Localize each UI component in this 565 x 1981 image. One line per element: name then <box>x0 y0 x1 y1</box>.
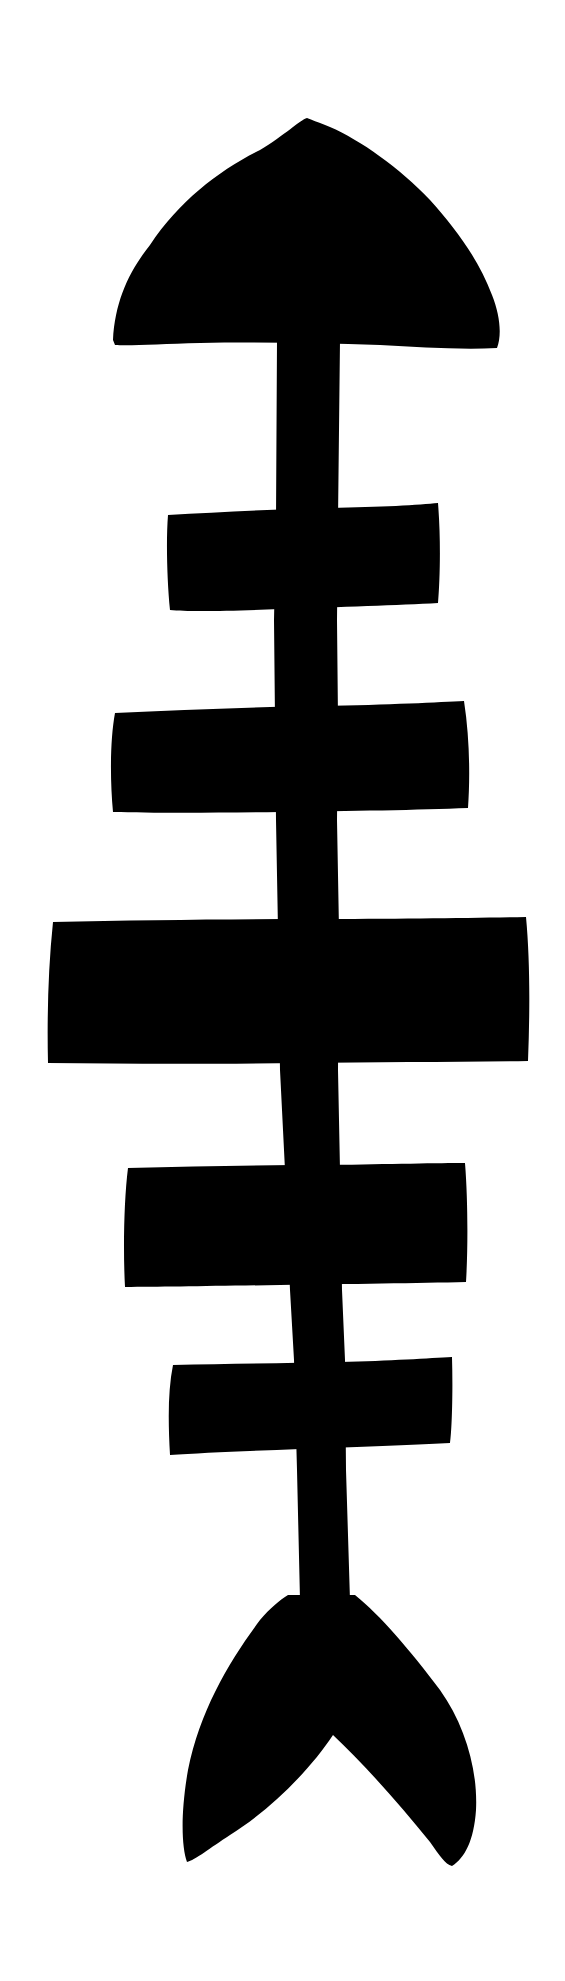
fish-skeleton-icon <box>0 0 565 1981</box>
rib-5 <box>169 1357 453 1455</box>
rib-2 <box>111 701 469 813</box>
rib-4 <box>124 1163 467 1287</box>
rib-1 <box>167 503 440 611</box>
rib-3 <box>48 917 530 1064</box>
fish-skeleton-figure: Fish skeleton silhouette <box>0 0 565 1981</box>
